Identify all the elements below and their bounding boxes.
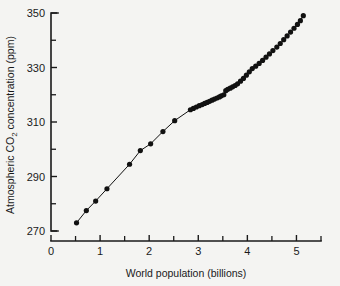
data-point-marker bbox=[104, 186, 109, 191]
data-point-marker bbox=[172, 118, 177, 123]
chart-figure: 270290310330350 012345 Atmospheric CO2 c… bbox=[0, 0, 340, 286]
data-point-marker bbox=[138, 148, 143, 153]
co2-population-scatter-chart: 270290310330350 012345 Atmospheric CO2 c… bbox=[0, 0, 340, 286]
y-axis-tick-label: 330 bbox=[27, 62, 45, 74]
y-axis-tick-label: 290 bbox=[27, 171, 45, 183]
x-axis-title: World population (billions) bbox=[126, 267, 247, 279]
y-axis-tick-label: 270 bbox=[27, 225, 45, 237]
data-point-marker bbox=[84, 208, 89, 213]
data-point-marker bbox=[93, 198, 98, 203]
data-point-marker bbox=[298, 18, 303, 23]
x-axis-tick-label: 5 bbox=[293, 245, 299, 257]
data-point-marker bbox=[74, 220, 79, 225]
y-axis-tick-label: 310 bbox=[27, 116, 45, 128]
x-axis-tick-label: 1 bbox=[97, 245, 103, 257]
y-axis-tick-label: 350 bbox=[27, 7, 45, 19]
x-axis-tick-label: 2 bbox=[146, 245, 152, 257]
x-axis-tick-label: 3 bbox=[195, 245, 201, 257]
data-point-marker bbox=[160, 129, 165, 134]
x-axis-tick-label: 0 bbox=[48, 245, 54, 257]
data-point-marker bbox=[301, 13, 306, 18]
data-point-marker bbox=[270, 48, 275, 53]
x-axis-tick-label: 4 bbox=[244, 245, 250, 257]
data-point-marker bbox=[148, 141, 153, 146]
data-point-marker bbox=[127, 162, 132, 167]
